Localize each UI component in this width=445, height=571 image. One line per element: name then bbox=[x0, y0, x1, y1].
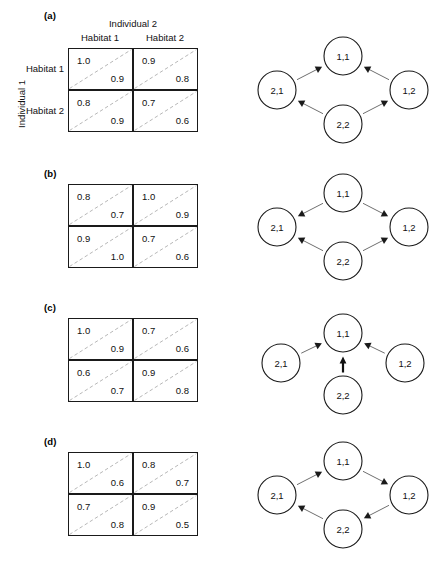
graph-edge bbox=[363, 471, 383, 481]
matrix-cell-lower-value: 0.6 bbox=[176, 115, 189, 126]
matrix-cell-upper-value: 1.0 bbox=[77, 459, 90, 470]
graph-edge bbox=[303, 240, 323, 250]
matrix-cell-lower-value: 0.9 bbox=[111, 115, 124, 126]
graph-edge bbox=[303, 508, 323, 518]
column-header: Habitat 1 bbox=[69, 32, 131, 43]
matrix-cell-upper-value: 0.9 bbox=[142, 367, 155, 378]
panel-letter: (c) bbox=[44, 302, 56, 313]
matrix-cell-lower-value: 0.7 bbox=[111, 385, 124, 396]
matrix-cell-lower-value: 0.6 bbox=[176, 251, 189, 262]
graph-node-label: 2,1 bbox=[274, 358, 287, 369]
figure-panel: (b)0.80.71.00.90.91.00.70.61,11,22,12,2 bbox=[0, 168, 445, 300]
matrix-cell-upper-value: 0.7 bbox=[142, 97, 155, 108]
matrix-cell-upper-value: 1.0 bbox=[142, 191, 155, 202]
matrix-cell-upper-value: 1.0 bbox=[77, 55, 90, 66]
graph-node-label: 1,1 bbox=[336, 456, 349, 467]
graph-node-label: 2,2 bbox=[336, 119, 349, 130]
graph-node-label: 1,2 bbox=[402, 222, 415, 233]
matrix-cell-upper-value: 1.0 bbox=[77, 325, 90, 336]
graph-edge bbox=[369, 69, 389, 79]
matrix-cell-lower-value: 0.9 bbox=[111, 73, 124, 84]
matrix-cell-lower-value: 0.6 bbox=[111, 477, 124, 488]
matrix-cell-upper-value: 0.9 bbox=[142, 501, 155, 512]
graph-node-label: 1,1 bbox=[336, 188, 349, 199]
graph-node-label: 1,1 bbox=[336, 51, 349, 62]
payoff-matrix: 1.00.90.70.60.60.70.90.8 bbox=[68, 318, 198, 402]
figure-panel: (c)1.00.90.70.60.60.70.90.81,11,22,12,2 bbox=[0, 302, 445, 434]
matrix-cell-upper-value: 0.7 bbox=[142, 325, 155, 336]
graph-edge bbox=[363, 103, 383, 113]
graph-edge bbox=[301, 346, 317, 354]
graph-node-label: 1,2 bbox=[402, 85, 415, 96]
matrix-cell-upper-value: 0.6 bbox=[77, 367, 90, 378]
matrix-cell-lower-value: 1.0 bbox=[111, 251, 124, 262]
matrix-cell-lower-value: 0.8 bbox=[176, 73, 189, 84]
graph-node-label: 2,1 bbox=[270, 85, 283, 96]
matrix-cell-lower-value: 0.8 bbox=[111, 519, 124, 530]
column-axis-title: Individual 2 bbox=[71, 18, 195, 29]
graph-node-label: 2,2 bbox=[336, 256, 349, 267]
graph-node-label: 1,1 bbox=[336, 328, 349, 339]
graph-node-label: 2,1 bbox=[270, 222, 283, 233]
matrix-cell-lower-value: 0.7 bbox=[111, 209, 124, 220]
transition-graph: 1,11,22,12,2 bbox=[248, 168, 438, 286]
payoff-matrix: 1.00.60.80.70.70.80.90.5 bbox=[68, 452, 198, 536]
graph-node-label: 1,2 bbox=[398, 358, 411, 369]
graph-edge bbox=[363, 240, 383, 250]
graph-edge bbox=[303, 103, 323, 113]
transition-graph: 1,11,22,12,2 bbox=[248, 436, 438, 554]
graph-edge bbox=[369, 346, 385, 354]
graph-edge-arrowhead bbox=[340, 357, 347, 364]
matrix-cell-lower-value: 0.8 bbox=[176, 385, 189, 396]
matrix-cell-lower-value: 0.7 bbox=[176, 477, 189, 488]
figure-panel: (d)1.00.60.80.70.70.80.90.51,11,22,12,2 bbox=[0, 436, 445, 568]
graph-edge bbox=[363, 203, 383, 213]
graph-edge bbox=[303, 203, 323, 213]
row-header: Habitat 1 bbox=[8, 63, 64, 74]
graph-node-label: 2,1 bbox=[270, 490, 283, 501]
panel-letter: (a) bbox=[44, 10, 56, 21]
figure-panel: (a)Individual 2Habitat 1Habitat 2Habitat… bbox=[0, 10, 445, 142]
matrix-cell-upper-value: 0.7 bbox=[77, 501, 90, 512]
transition-graph: 1,11,22,12,2 bbox=[248, 302, 438, 420]
matrix-cell-upper-value: 0.9 bbox=[77, 233, 90, 244]
matrix-cell-upper-value: 0.8 bbox=[77, 97, 90, 108]
graph-edge bbox=[297, 474, 317, 484]
panel-letter: (d) bbox=[44, 436, 57, 447]
payoff-matrix: 1.00.90.90.80.80.90.70.6 bbox=[68, 48, 198, 132]
matrix-cell-lower-value: 0.9 bbox=[111, 343, 124, 354]
payoff-matrix: 0.80.71.00.90.91.00.70.6 bbox=[68, 184, 198, 268]
matrix-cell-upper-value: 0.8 bbox=[77, 191, 90, 202]
graph-node-label: 2,2 bbox=[336, 390, 349, 401]
row-axis-title: Individual 1 bbox=[16, 80, 27, 128]
graph-node-label: 1,2 bbox=[402, 490, 415, 501]
graph-edge bbox=[369, 505, 389, 515]
matrix-cell-upper-value: 0.8 bbox=[142, 459, 155, 470]
panel-letter: (b) bbox=[44, 168, 57, 179]
graph-edge bbox=[297, 69, 317, 79]
matrix-cell-lower-value: 0.5 bbox=[176, 519, 189, 530]
matrix-cell-upper-value: 0.7 bbox=[142, 233, 155, 244]
transition-graph: 1,11,22,12,2 bbox=[248, 31, 438, 149]
matrix-cell-upper-value: 0.9 bbox=[142, 55, 155, 66]
graph-node-label: 2,2 bbox=[336, 524, 349, 535]
column-header: Habitat 2 bbox=[134, 32, 196, 43]
matrix-cell-lower-value: 0.6 bbox=[176, 343, 189, 354]
matrix-cell-lower-value: 0.9 bbox=[176, 209, 189, 220]
